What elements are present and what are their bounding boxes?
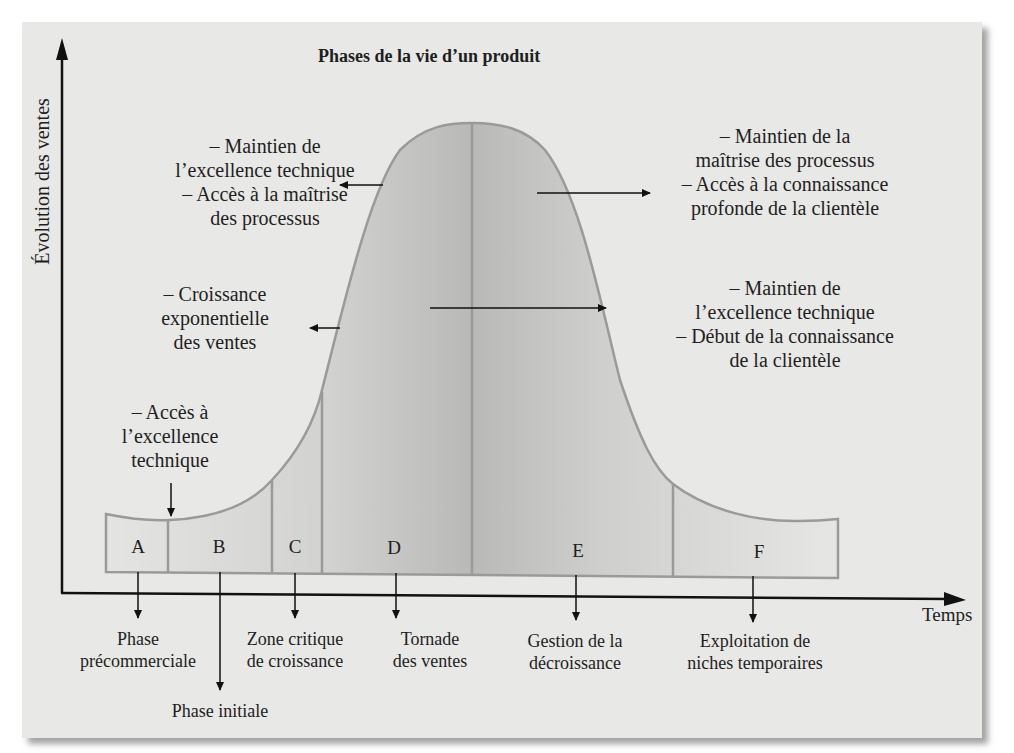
diagram-title: Phases de la vie d’un produit — [318, 46, 540, 67]
phase-label-e: Gestion de la décroissance — [510, 630, 640, 674]
y-axis-label: Évolution des ventes — [31, 52, 54, 312]
phase-letter-d: D — [379, 537, 409, 559]
phase-label-a: Phase précommerciale — [58, 628, 218, 672]
annotation-left-middle: – Croissance exponentielle des ventes — [130, 282, 300, 354]
annotation-right-middle: – Maintien de l’excellence technique – D… — [645, 276, 925, 372]
phase-letter-e: E — [563, 540, 593, 562]
phase-letter-a: A — [123, 536, 153, 558]
phase-letter-c: C — [280, 536, 310, 558]
phase-label-d: Tornade des ventes — [370, 628, 490, 672]
phase-letter-f: F — [744, 541, 774, 563]
y-axis-arrow-icon — [56, 38, 68, 60]
phase-letter-b: B — [204, 536, 234, 558]
annotation-right-top: – Maintien de la maîtrise des processus … — [650, 124, 920, 220]
phase-label-c: Zone critique de croissance — [225, 628, 365, 672]
annotation-left-bottom: – Accès à l’excellence technique — [100, 400, 240, 472]
annotation-left-top: – Maintien de l’excellence technique – A… — [150, 134, 380, 230]
x-axis — [61, 593, 950, 599]
phase-label-b: Phase initiale — [150, 700, 290, 722]
x-axis-label: Temps — [922, 604, 972, 626]
phase-label-f: Exploitation de niches temporaires — [675, 630, 835, 674]
